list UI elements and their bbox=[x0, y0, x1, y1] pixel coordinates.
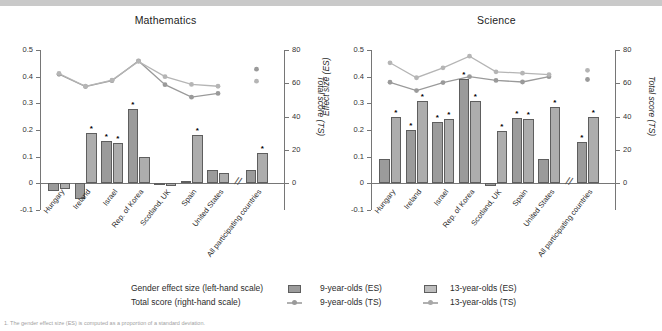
y-ticklabel-left-math: 0.4 bbox=[3, 73, 33, 81]
figure-caption: 1. The gender effect size (ES) is comput… bbox=[4, 320, 658, 326]
legend-linemarker-13yo-ts bbox=[423, 302, 438, 304]
ts-marker-sci bbox=[388, 60, 393, 65]
y-tick-left-sci bbox=[367, 157, 371, 158]
bar-math bbox=[207, 170, 218, 183]
y-tick-left-sci bbox=[367, 210, 371, 211]
y-tick-right-sci bbox=[616, 117, 620, 118]
y-ticklabel-left-math: 0 bbox=[3, 179, 33, 187]
bar-math bbox=[192, 135, 203, 183]
plot-area-science: Effect size (ES) Total score (TS) -0.100… bbox=[371, 50, 616, 210]
y-ticklabel-left-math: 0.1 bbox=[3, 153, 33, 161]
ts-marker-sci bbox=[441, 65, 446, 70]
ts-marker-all-sci bbox=[585, 77, 590, 82]
panel-title-mathematics: Mathematics bbox=[0, 14, 331, 26]
y-ticklabel-right-sci: 80 bbox=[623, 46, 653, 54]
ts-marker-sci bbox=[414, 75, 419, 80]
ts-marker-math bbox=[57, 71, 62, 76]
bar-sci bbox=[470, 101, 481, 184]
ts-marker-sci bbox=[520, 80, 525, 85]
legend-label-total-score: Total score (right-hand scale) bbox=[131, 296, 241, 309]
legend-label-13yo-ts: 13-year-olds (TS) bbox=[450, 296, 516, 309]
significance-star: * bbox=[588, 110, 598, 116]
significance-star: * bbox=[257, 146, 267, 152]
y-axis-label-left-sci: Effect size (ES) bbox=[321, 57, 331, 116]
significance-star: * bbox=[497, 124, 507, 130]
bar-math bbox=[166, 183, 177, 186]
y-ticklabel-right-math: 40 bbox=[292, 113, 322, 121]
ts-line-math bbox=[59, 61, 218, 97]
ts-marker-math bbox=[216, 91, 221, 96]
ts-marker-sci bbox=[494, 69, 499, 74]
bar-math bbox=[128, 109, 139, 184]
plot-area-mathematics: Effect size (ES) Total score (TS) -0.100… bbox=[40, 50, 285, 210]
y-tick-right-math bbox=[285, 183, 289, 184]
bar-math bbox=[246, 170, 257, 183]
ts-marker-sci bbox=[467, 54, 472, 59]
ts-marker-math bbox=[216, 84, 221, 89]
y-ticklabel-right-math: 80 bbox=[292, 46, 322, 54]
bar-sci bbox=[512, 118, 523, 183]
y-tick-left-sci bbox=[367, 50, 371, 51]
y-tick-left-math bbox=[36, 77, 40, 78]
y-ticklabel-left-sci: 0.4 bbox=[334, 73, 364, 81]
bar-sci bbox=[538, 159, 549, 183]
bar-sci bbox=[417, 101, 428, 184]
panel-science: Science Effect size (ES) Total score (TS… bbox=[331, 0, 662, 275]
bar-sci bbox=[459, 79, 470, 183]
ts-marker-math bbox=[163, 82, 168, 87]
y-tick-right-math bbox=[285, 50, 289, 51]
ts-marker-math bbox=[189, 82, 194, 87]
legend-swatch-13yo-es bbox=[424, 285, 437, 293]
y-tick-left-sci bbox=[367, 103, 371, 104]
y-tick-right-math bbox=[285, 117, 289, 118]
y-ticklabel-left-math: 0.2 bbox=[3, 126, 33, 134]
significance-star: * bbox=[192, 128, 202, 134]
y-tick-left-math bbox=[36, 130, 40, 131]
legend-dot-9yo-ts bbox=[292, 300, 297, 305]
ts-marker-math bbox=[189, 95, 194, 100]
significance-star: * bbox=[113, 136, 123, 142]
y-tick-left-sci bbox=[367, 130, 371, 131]
ts-line-math bbox=[59, 61, 218, 86]
y-tick-left-math bbox=[36, 50, 40, 51]
y-tick-left-math bbox=[36, 210, 40, 211]
ts-marker-sci bbox=[388, 80, 393, 85]
significance-star: * bbox=[128, 102, 138, 108]
legend-label-9yo-es: 9-year-olds (ES) bbox=[320, 282, 382, 295]
legend-label-13yo-es: 13-year-olds (ES) bbox=[450, 282, 517, 295]
y-tick-left-math bbox=[36, 157, 40, 158]
y-tick-right-math bbox=[285, 83, 289, 84]
y-tick-left-math bbox=[36, 183, 40, 184]
legend-row-effect-size: Gender effect size (left-hand scale) 9-y… bbox=[0, 282, 662, 295]
y-ticklabel-left-sci: 0.2 bbox=[334, 126, 364, 134]
significance-star: * bbox=[406, 123, 416, 129]
legend-label-effect-size: Gender effect size (left-hand scale) bbox=[131, 282, 263, 295]
bar-sci bbox=[391, 117, 402, 184]
significance-star: * bbox=[444, 112, 454, 118]
y-ticklabel-left-math: 0.3 bbox=[3, 99, 33, 107]
bar-math bbox=[257, 153, 268, 184]
bar-math bbox=[86, 133, 97, 184]
bar-math bbox=[101, 141, 112, 184]
y-ticklabel-left-sci: 0.1 bbox=[334, 153, 364, 161]
y-ticklabel-left-math: -0.1 bbox=[3, 206, 33, 214]
bar-math bbox=[154, 183, 165, 185]
ts-marker-all-math bbox=[254, 79, 259, 84]
bar-math bbox=[113, 143, 124, 183]
y-tick-right-sci bbox=[616, 50, 620, 51]
legend-dot-13yo-ts bbox=[428, 300, 433, 305]
y-ticklabel-left-sci: 0.5 bbox=[334, 46, 364, 54]
y-ticklabel-left-sci: 0.3 bbox=[334, 99, 364, 107]
bar-sci bbox=[379, 159, 390, 183]
ts-marker-sci bbox=[441, 80, 446, 85]
ts-marker-math bbox=[110, 78, 115, 83]
y-tick-left-sci bbox=[367, 183, 371, 184]
panel-title-science: Science bbox=[331, 14, 662, 26]
y-ticklabel-right-math: 0 bbox=[292, 179, 322, 187]
significance-star: * bbox=[550, 100, 560, 106]
ts-marker-all-sci bbox=[585, 68, 590, 73]
bar-sci bbox=[406, 130, 417, 183]
y-ticklabel-right-math: 20 bbox=[292, 146, 322, 154]
significance-star: * bbox=[459, 72, 469, 78]
ts-marker-all-math bbox=[254, 67, 259, 72]
